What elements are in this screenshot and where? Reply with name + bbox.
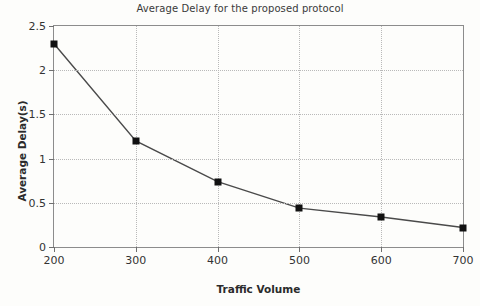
gridline-vertical — [218, 26, 219, 247]
x-axis-tick — [136, 247, 137, 252]
chart-screenshot: Average Delay for the proposed protocol … — [0, 0, 480, 306]
x-axis-tick-label: 600 — [371, 254, 392, 267]
x-axis-tick-label: 500 — [289, 254, 310, 267]
y-axis-tick-label: 1.5 — [29, 108, 47, 121]
data-point-marker — [214, 178, 221, 185]
x-axis-title: Traffic Volume — [53, 283, 464, 295]
x-axis-tick — [299, 247, 300, 252]
data-point-marker — [378, 213, 385, 220]
data-point-marker — [132, 137, 139, 144]
y-axis-tick-label: 2 — [39, 64, 46, 77]
data-point-marker — [296, 205, 303, 212]
y-axis-tick — [49, 114, 54, 115]
y-axis-tick — [49, 26, 54, 27]
y-axis-tick — [49, 70, 54, 71]
x-axis-tick — [54, 247, 55, 252]
data-point-marker — [51, 40, 58, 47]
gridline-horizontal — [54, 159, 463, 160]
plot-area: 00.511.522.5200300400500600700 — [53, 25, 464, 248]
y-axis-tick — [49, 159, 54, 160]
y-axis-tick-label: 0 — [39, 241, 46, 254]
x-axis-tick-label: 300 — [125, 254, 146, 267]
x-axis-tick — [218, 247, 219, 252]
x-axis-tick — [463, 247, 464, 252]
chart-title: Average Delay for the proposed protocol — [0, 3, 480, 14]
gridline-horizontal — [54, 114, 463, 115]
y-axis-tick — [49, 203, 54, 204]
series-line — [54, 26, 463, 247]
x-axis-tick-label: 400 — [207, 254, 228, 267]
data-point-marker — [460, 224, 467, 231]
gridline-horizontal — [54, 203, 463, 204]
y-axis-title: Average Delay(s) — [16, 71, 28, 231]
y-axis-tick-label: 0.5 — [29, 196, 47, 209]
x-axis-tick — [381, 247, 382, 252]
gridline-horizontal — [54, 70, 463, 71]
x-axis-tick-label: 200 — [44, 254, 65, 267]
y-axis-tick-label: 1 — [39, 152, 46, 165]
gridline-vertical — [299, 26, 300, 247]
y-axis-tick-label: 2.5 — [29, 20, 47, 33]
x-axis-tick-label: 700 — [453, 254, 474, 267]
